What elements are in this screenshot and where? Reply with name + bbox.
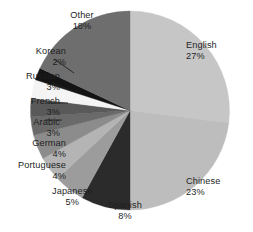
slice-label-russian-name: Russian xyxy=(0,71,60,82)
slice-label-english-value: 27% xyxy=(186,51,217,62)
pie-chart: English 27% Chinese 23% Spanish 8% Japan… xyxy=(0,0,253,232)
slice-label-spanish-name: Spanish xyxy=(108,200,142,211)
slice-label-chinese-value: 23% xyxy=(186,187,220,198)
slice-label-english: English 27% xyxy=(186,40,217,61)
slice-label-arabic-value: 3% xyxy=(0,128,60,139)
slice-label-spanish: Spanish 8% xyxy=(108,200,142,221)
pie-slice-english xyxy=(130,11,230,123)
slice-label-japanese: Japanese 5% xyxy=(52,186,93,207)
slice-label-japanese-name: Japanese xyxy=(52,186,93,197)
slice-label-russian: Russian 3% xyxy=(0,71,60,92)
slice-label-other-value: 18% xyxy=(58,21,106,32)
slice-label-korean-value: 2% xyxy=(0,57,66,68)
slice-label-portuguese: Portuguese 4% xyxy=(0,160,66,181)
slice-label-arabic: Arabic 3% xyxy=(0,117,60,138)
slice-label-other-name: Other xyxy=(58,10,106,21)
slice-label-german-name: German xyxy=(0,138,66,149)
slice-label-german-value: 4% xyxy=(0,149,66,160)
slice-label-chinese: Chinese 23% xyxy=(186,176,220,197)
slice-label-chinese-name: Chinese xyxy=(186,176,220,187)
slice-label-french-name: French xyxy=(0,96,60,107)
slice-label-japanese-value: 5% xyxy=(52,197,93,208)
slice-label-korean: Korean 2% xyxy=(0,46,66,67)
slice-label-portuguese-value: 4% xyxy=(0,171,66,182)
slice-label-other: Other 18% xyxy=(58,10,106,31)
slice-label-korean-name: Korean xyxy=(0,46,66,57)
slice-label-english-name: English xyxy=(186,40,217,51)
slice-label-portuguese-name: Portuguese xyxy=(0,160,66,171)
slice-label-french: French 3% xyxy=(0,96,60,117)
slice-label-spanish-value: 8% xyxy=(108,211,142,222)
slice-label-russian-value: 3% xyxy=(0,82,60,93)
slice-label-german: German 4% xyxy=(0,138,66,159)
slice-label-arabic-name: Arabic xyxy=(0,117,60,128)
slice-label-french-value: 3% xyxy=(0,107,60,118)
